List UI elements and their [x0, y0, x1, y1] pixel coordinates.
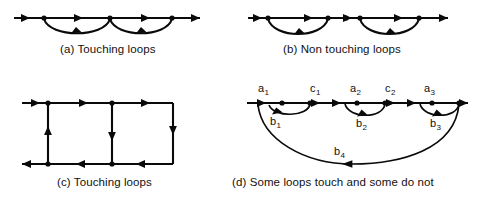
branch-label-b2-base: b — [356, 117, 362, 129]
panel-b-arrowhead-5 — [439, 14, 448, 22]
branch-label-c2-base: c — [385, 82, 391, 94]
panel-a-caption: (a) Touching loops — [60, 43, 156, 55]
panel-c-arrowhead-top-2 — [79, 99, 88, 107]
panel-d-caption: (d) Some loops touch and some do not — [232, 176, 434, 188]
panel-a-arrowhead-1 — [21, 14, 30, 22]
panel-b-arrowhead-1 — [253, 14, 262, 22]
branch-label-c1: c1 — [310, 82, 320, 94]
branch-label-b4-base: b — [334, 145, 340, 157]
branch-label-b1: b1 — [270, 115, 281, 127]
branch-label-b4-sub: 4 — [341, 151, 345, 160]
branch-label-b4: b4 — [334, 145, 345, 157]
panel-b-arrowhead-4 — [394, 14, 403, 22]
panel-b-node-3 — [343, 15, 348, 20]
branch-label-c1-base: c — [310, 82, 316, 94]
branch-label-a3: a3 — [424, 82, 435, 94]
branch-label-b2: b2 — [356, 117, 367, 129]
panel-c-arrowhead-middle — [108, 132, 116, 141]
branch-label-c1-sub: 1 — [316, 88, 320, 97]
panel-a-arrowhead-4 — [191, 14, 200, 22]
panel-b-arrowhead-2 — [304, 14, 313, 22]
panel-b-node-5 — [416, 15, 421, 20]
panel-d-arrowhead-a3 — [407, 99, 416, 107]
panel-d-node-3 — [354, 100, 359, 105]
branch-label-a3-base: a — [424, 82, 430, 94]
panel-b-caption: (b) Non touching loops — [283, 43, 401, 55]
signal-flow-graph-figure — [0, 0, 483, 200]
panel-d-node-5 — [429, 100, 434, 105]
branch-label-b3-sub: 3 — [437, 123, 441, 132]
panel-c-arrowhead-bottom-1 — [22, 160, 31, 168]
panel-c-arrowhead-bottom-2 — [76, 160, 85, 168]
panel-b-graph — [248, 14, 448, 34]
panel-c-arrowhead-bottom-3 — [136, 160, 145, 168]
panel-c-node-top-mid — [109, 100, 114, 105]
panel-d-node-2 — [307, 100, 312, 105]
branch-label-a1: a1 — [258, 82, 269, 94]
panel-b-node-4 — [357, 15, 362, 20]
branch-label-b3-base: b — [430, 117, 436, 129]
branch-label-c2-sub: 2 — [391, 88, 395, 97]
panel-c-arrowhead-top-1 — [31, 99, 40, 107]
branch-label-b1-sub: 1 — [277, 121, 281, 130]
panel-c-arrowhead-top-3 — [141, 99, 150, 107]
panel-c-graph — [22, 99, 177, 168]
panel-b-node-1 — [265, 15, 270, 20]
branch-label-b1-base: b — [270, 115, 276, 127]
panel-d-graph — [247, 99, 468, 168]
panel-a-graph — [14, 14, 200, 33]
panel-a-node-2 — [107, 15, 112, 20]
figure-page: (a) Touching loops (b) Non touching loop… — [0, 0, 483, 200]
branch-label-a3-sub: 3 — [431, 88, 435, 97]
panel-a-arrowhead-3 — [141, 14, 150, 22]
branch-label-a2-sub: 2 — [357, 88, 361, 97]
panel-d-arrowhead-a2 — [332, 99, 341, 107]
panel-a-node-3 — [169, 15, 174, 20]
branch-label-a1-base: a — [258, 82, 264, 94]
branch-label-a2: a2 — [350, 82, 361, 94]
branch-label-b3: b3 — [430, 117, 441, 129]
panel-c-node-top-left — [45, 100, 50, 105]
panel-b-node-2 — [325, 15, 330, 20]
branch-label-b2-sub: 2 — [363, 123, 367, 132]
panel-c-arrowhead-right — [169, 126, 177, 135]
panel-c-arrowhead-left — [44, 126, 52, 135]
panel-d-node-4 — [382, 100, 387, 105]
panel-c-caption: (c) Touching loops — [57, 176, 152, 188]
panel-c-node-bottom-left — [45, 161, 50, 166]
panel-d-node-6 — [456, 100, 461, 105]
panel-a-arrowhead-2 — [74, 14, 83, 22]
branch-label-a1-sub: 1 — [265, 88, 269, 97]
panel-c-node-bottom-mid — [109, 161, 114, 166]
branch-label-c2: c2 — [385, 82, 395, 94]
panel-d-node-1 — [279, 100, 284, 105]
panel-a-node-1 — [41, 15, 46, 20]
panel-d-loop-b4-arrowhead — [342, 160, 352, 167]
branch-label-a2-base: a — [350, 82, 356, 94]
